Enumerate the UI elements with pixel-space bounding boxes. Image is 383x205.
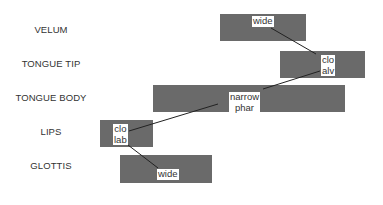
gesture-label-line: alv — [322, 66, 334, 77]
phasing-line — [271, 28, 316, 54]
gesture-label-tongue-tip: cloalv — [321, 55, 335, 76]
gesture-label-lips: clolab — [113, 124, 128, 145]
phasing-line — [128, 145, 158, 168]
gesture-label-line: clo — [322, 55, 334, 66]
gesture-label-velum: wide — [252, 16, 274, 27]
gesture-label-line: lab — [114, 135, 127, 146]
gesture-label-glottis: wide — [157, 169, 179, 180]
phasing-lines — [0, 0, 383, 205]
phasing-line — [263, 71, 320, 89]
gesture-label-line: clo — [114, 124, 127, 135]
gesture-label-line: wide — [253, 16, 273, 27]
gesture-label-line: narrow — [230, 92, 259, 103]
phasing-line — [129, 104, 218, 131]
gesture-label-line: wide — [158, 169, 178, 180]
gesture-label-line: phar — [230, 103, 259, 114]
gesture-label-tongue-body: narrowphar — [229, 92, 260, 113]
